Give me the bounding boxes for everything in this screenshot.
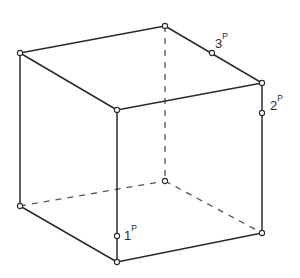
vertex-top-back-apex [162,23,167,28]
vertex-top-right-back [259,80,264,85]
vertex-marker-group [17,23,264,264]
bottom-right-rear-hidden-edge [165,181,262,233]
point-1-label: 1P [124,223,137,243]
vertex-bottom-back [162,178,167,183]
point-1-superscript: P [131,223,137,233]
point-3-number: 3 [215,36,222,51]
bottom-left-front-edge [20,206,117,262]
point-2-number: 2 [270,98,277,113]
point-1-marker-icon [114,233,119,238]
point-2-superscript: P [277,93,283,103]
vertex-bottom-right [259,230,264,235]
hidden-edge-group [20,26,262,233]
solid-edge-group [20,26,262,262]
vertex-bottom-left [17,203,22,208]
labeled-point-group: 1P2P3P [114,31,283,243]
bottom-right-front-edge [117,233,262,262]
vertex-bottom-front [114,259,119,264]
top-right-front-edge [117,83,262,110]
bottom-left-rear-hidden-edge [20,181,165,206]
vertex-top-left-back [17,50,22,55]
point-1-number: 1 [124,228,131,243]
top-left-front-edge [20,53,117,110]
point-2-label: 2P [270,93,283,113]
point-3-label: 3P [215,31,228,51]
point-3-superscript: P [222,31,228,41]
cube-figure-canvas: 1P2P3P [0,0,300,278]
top-left-rear-edge [20,26,165,53]
vertex-top-front [114,107,119,112]
point-3-marker-icon [209,50,214,55]
cube-wireframe-svg: 1P2P3P [0,0,300,278]
point-2-marker-icon [259,110,264,115]
